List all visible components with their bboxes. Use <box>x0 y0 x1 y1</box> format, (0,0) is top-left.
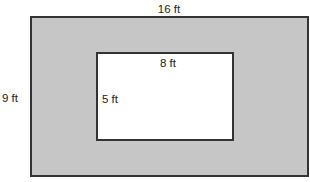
inner-width-label: 8 ft <box>160 57 176 69</box>
outer-height-label: 9 ft <box>2 92 18 104</box>
inner-height-label: 5 ft <box>102 93 118 105</box>
outer-width-label: 16 ft <box>158 3 180 15</box>
